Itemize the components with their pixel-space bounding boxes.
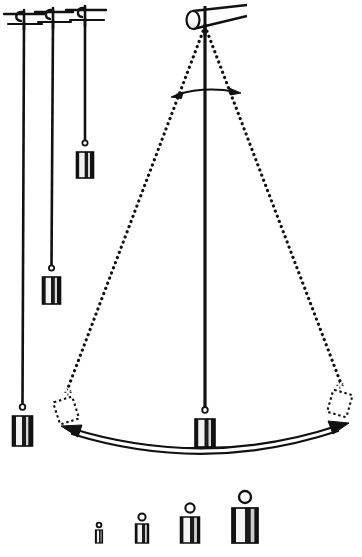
pendulum-string — [23, 22, 25, 404]
rod-end-cap — [187, 11, 200, 29]
weight-body — [181, 517, 200, 543]
pendulum-bob — [77, 152, 94, 178]
pendulum-bob — [43, 277, 61, 304]
weight-body — [96, 530, 103, 543]
weight-body — [232, 508, 258, 543]
weight-body — [136, 524, 149, 543]
diagram-svg — [0, 0, 362, 557]
pendulum-diagram-canvas — [0, 0, 362, 557]
pendulum-string — [52, 20, 54, 265]
pendulum-bob — [13, 416, 33, 446]
pendulum-bob — [195, 419, 215, 447]
